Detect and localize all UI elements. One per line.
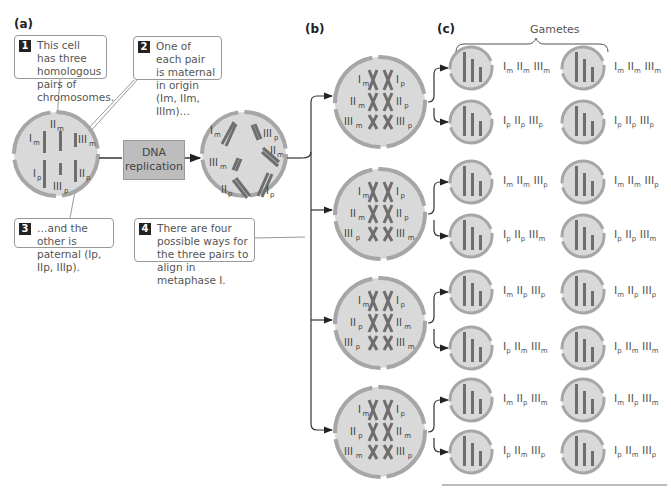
gamete-label: Ip IIp IIIm bbox=[614, 228, 656, 243]
gamete-label: Im IIm IIIm bbox=[503, 60, 550, 75]
svg-text:m: m bbox=[408, 343, 415, 351]
callout-4: 4 There are four possible ways for the t… bbox=[134, 218, 255, 262]
svg-text:m: m bbox=[363, 301, 370, 309]
svg-text:II: II bbox=[396, 96, 402, 107]
svg-text:II: II bbox=[396, 208, 402, 219]
gamete-label: Ip IIp IIIp bbox=[503, 114, 543, 129]
svg-text:II: II bbox=[396, 317, 402, 328]
gamete-label: Ip IIp IIIp bbox=[614, 114, 654, 129]
callout-2: 2 One of each pair is maternal in origin… bbox=[133, 36, 222, 80]
gamete-label: Ip IIm IIIp bbox=[614, 444, 656, 459]
dna-replication-box: DNA replication bbox=[123, 140, 185, 180]
gamete-label: Im IIp IIIp bbox=[614, 284, 656, 299]
svg-text:m: m bbox=[57, 125, 64, 133]
svg-text:II: II bbox=[396, 426, 402, 437]
svg-text:m: m bbox=[358, 214, 365, 222]
svg-text:II: II bbox=[50, 119, 56, 130]
svg-text:m: m bbox=[363, 192, 370, 200]
svg-text:III: III bbox=[344, 337, 353, 348]
svg-text:I: I bbox=[29, 133, 32, 144]
svg-text:p: p bbox=[356, 234, 361, 242]
svg-text:p: p bbox=[401, 410, 406, 418]
svg-text:m: m bbox=[404, 432, 411, 440]
svg-text:I: I bbox=[396, 74, 399, 85]
gamete-label: Im IIp IIIm bbox=[503, 392, 548, 407]
svg-text:III: III bbox=[396, 337, 405, 348]
svg-text:p: p bbox=[401, 301, 406, 309]
svg-text:III: III bbox=[53, 181, 62, 192]
svg-text:p: p bbox=[86, 174, 91, 182]
svg-text:p: p bbox=[358, 432, 363, 440]
callout-1: 1 This cell has three homologous pairs o… bbox=[14, 35, 107, 79]
gamete-label: Ip IIp IIIm bbox=[503, 228, 545, 243]
gametes-title: Gametes bbox=[530, 23, 580, 36]
svg-text:p: p bbox=[356, 343, 361, 351]
svg-text:III: III bbox=[396, 228, 405, 239]
gamete-label: Ip IIm IIIm bbox=[614, 340, 659, 355]
svg-text:I: I bbox=[396, 186, 399, 197]
gamete-label: Im IIm IIIp bbox=[614, 174, 659, 189]
svg-text:III: III bbox=[344, 446, 353, 457]
svg-text:II: II bbox=[221, 184, 227, 195]
svg-text:p: p bbox=[404, 214, 409, 222]
svg-text:II: II bbox=[350, 426, 356, 437]
gamete-label: Im IIm IIIm bbox=[614, 60, 661, 75]
svg-text:II: II bbox=[350, 317, 356, 328]
svg-text:II: II bbox=[350, 208, 356, 219]
svg-text:p: p bbox=[270, 191, 275, 199]
svg-text:m: m bbox=[89, 140, 96, 148]
svg-text:p: p bbox=[274, 134, 279, 142]
svg-text:m: m bbox=[220, 163, 227, 171]
svg-text:p: p bbox=[358, 323, 363, 331]
svg-text:m: m bbox=[363, 80, 370, 88]
svg-text:II: II bbox=[270, 145, 276, 156]
svg-text:III: III bbox=[263, 128, 272, 139]
callout-3: 3 …and the other is paternal (Ip, IIp, I… bbox=[14, 218, 114, 248]
svg-text:I: I bbox=[358, 295, 361, 306]
svg-text:m: m bbox=[33, 139, 40, 147]
svg-text:III: III bbox=[344, 116, 353, 127]
gamete-label: Ip IIm IIIp bbox=[503, 444, 545, 459]
svg-text:m: m bbox=[404, 323, 411, 331]
svg-text:p: p bbox=[37, 174, 42, 182]
svg-text:m: m bbox=[358, 102, 365, 110]
svg-text:III: III bbox=[396, 446, 405, 457]
svg-text:I: I bbox=[210, 125, 213, 136]
svg-text:II: II bbox=[79, 168, 85, 179]
svg-text:I: I bbox=[33, 168, 36, 179]
svg-text:m: m bbox=[277, 151, 284, 159]
svg-text:p: p bbox=[401, 192, 406, 200]
svg-text:p: p bbox=[228, 190, 233, 198]
cell-original: Im IIm IIIm Ip IIIp IIp bbox=[14, 112, 98, 196]
svg-text:m: m bbox=[214, 131, 221, 139]
svg-text:I: I bbox=[266, 185, 269, 196]
svg-text:I: I bbox=[396, 404, 399, 415]
svg-text:III: III bbox=[209, 157, 218, 168]
svg-text:p: p bbox=[64, 187, 69, 195]
svg-text:III: III bbox=[78, 134, 87, 145]
svg-text:p: p bbox=[408, 452, 413, 460]
bottom-rule bbox=[442, 484, 667, 486]
svg-text:III: III bbox=[344, 228, 353, 239]
svg-text:m: m bbox=[356, 452, 363, 460]
svg-text:p: p bbox=[401, 80, 406, 88]
svg-text:III: III bbox=[396, 116, 405, 127]
svg-text:II: II bbox=[350, 96, 356, 107]
svg-text:p: p bbox=[404, 102, 409, 110]
gamete-label: Im IIm IIIp bbox=[503, 174, 548, 189]
gamete-label: Im IIp IIIm bbox=[614, 392, 659, 407]
svg-text:p: p bbox=[408, 122, 413, 130]
gamete-label: Im IIp IIIp bbox=[503, 284, 545, 299]
svg-text:I: I bbox=[358, 74, 361, 85]
cell-replicated: Im IIIp IIm IIIm IIp Ip bbox=[202, 112, 286, 199]
svg-text:I: I bbox=[358, 186, 361, 197]
svg-text:m: m bbox=[363, 410, 370, 418]
svg-text:I: I bbox=[396, 295, 399, 306]
svg-text:I: I bbox=[358, 404, 361, 415]
svg-text:m: m bbox=[408, 234, 415, 242]
svg-text:m: m bbox=[356, 122, 363, 130]
gamete-label: Ip IIm IIIm bbox=[503, 340, 548, 355]
